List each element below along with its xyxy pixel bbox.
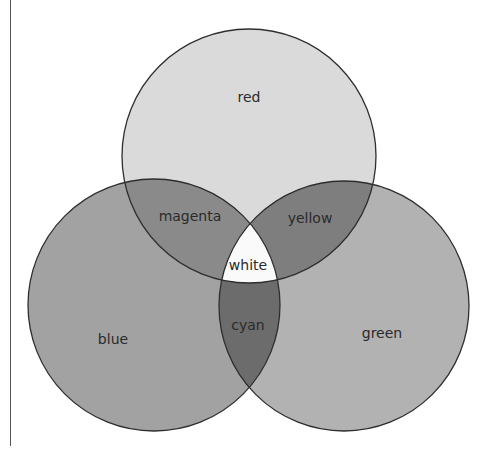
label-yellow: yellow xyxy=(288,210,333,226)
venn-diagram: red magenta yellow white cyan blue green xyxy=(0,0,497,452)
label-blue: blue xyxy=(98,331,128,347)
label-white: white xyxy=(229,257,267,273)
label-cyan: cyan xyxy=(231,317,264,333)
label-green: green xyxy=(362,325,402,341)
label-magenta: magenta xyxy=(159,208,222,224)
label-red: red xyxy=(238,89,261,105)
